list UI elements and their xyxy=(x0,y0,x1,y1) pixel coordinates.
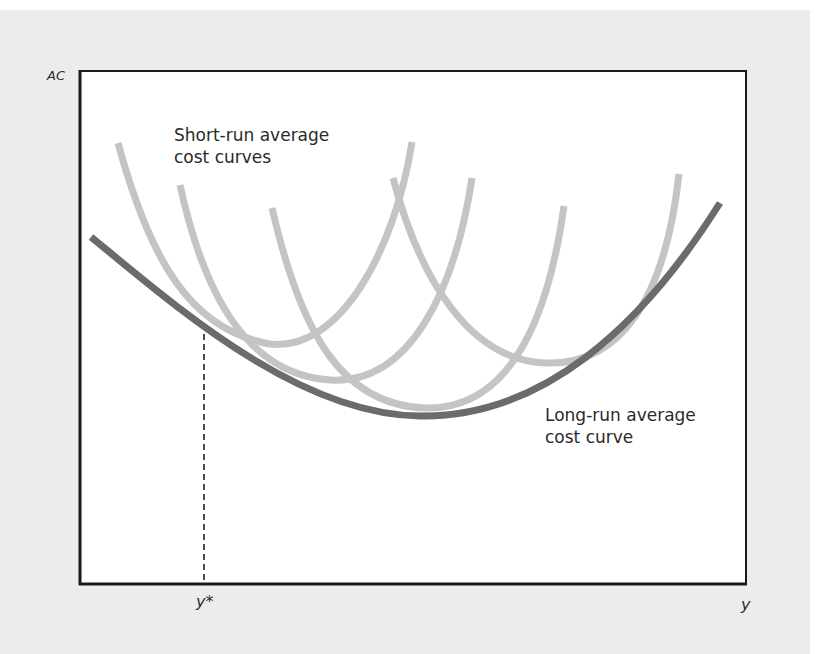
short-run-annotation-line-2: cost curves xyxy=(174,146,329,168)
x-axis-label: y xyxy=(741,595,750,614)
x-tick-y-star: y* xyxy=(196,592,213,611)
long-run-annotation-line-2: cost curve xyxy=(545,426,696,448)
long-run-annotation-line-1: Long-run average xyxy=(545,404,696,426)
short-run-annotation-line-1: Short-run average xyxy=(174,124,329,146)
cost-curves-chart xyxy=(0,0,829,654)
long-run-annotation: Long-run average cost curve xyxy=(545,404,696,448)
short-run-annotation: Short-run average cost curves xyxy=(174,124,329,168)
y-axis-label: AC xyxy=(47,68,65,83)
